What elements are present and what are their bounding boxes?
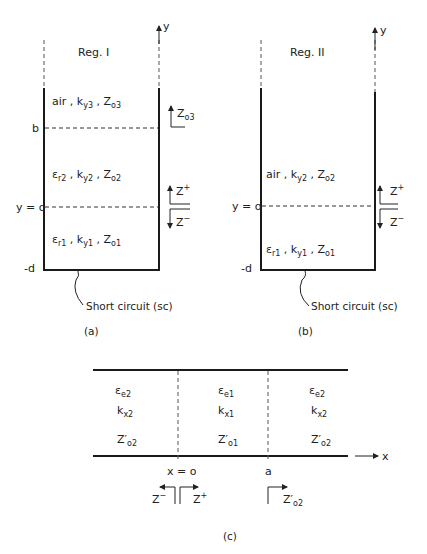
short-circuit-label: Short circuit (sc)	[311, 300, 398, 312]
short-circuit-label: Short circuit (sc)	[86, 300, 173, 312]
caption-c: (c)	[223, 530, 237, 542]
svg-text:Z′o1: Z′o1	[218, 433, 238, 448]
svg-text:kx2: kx2	[311, 404, 327, 419]
caption-b: (b)	[298, 325, 313, 337]
region-right: εe2 kx2 Z′o2	[309, 384, 331, 448]
mark-d: -d	[241, 262, 252, 275]
svg-text:Z′o2: Z′o2	[117, 433, 137, 448]
region-center: εe1 kx1 Z′o1	[218, 384, 238, 448]
layer2-params: εr2 , ky2 , Zo2	[52, 168, 121, 183]
short-circuit-leader	[75, 271, 83, 305]
y-axis-label: y	[163, 20, 170, 33]
x-axis-label: x	[382, 450, 389, 463]
waveguide-diagram: y Reg. I air , ky3 , Zo3 b Zo3 εr2 , ky2…	[0, 0, 427, 554]
figure-b: y Reg. II air , ky2 , Zo2 y = o Z+ Z− εr…	[232, 24, 404, 337]
mark-y0: y = o	[16, 201, 46, 214]
z-plus-label: Z+	[176, 183, 190, 198]
z-minus-label: Z−	[152, 491, 166, 506]
layer1-params: εr1 , ky1 , Zo1	[266, 243, 335, 258]
z-o3-label: Zo3	[177, 107, 195, 122]
svg-text:εe2: εe2	[309, 384, 325, 399]
svg-text:kx2: kx2	[117, 404, 133, 419]
mark-b: b	[32, 122, 39, 135]
z-plus-label: Z+	[193, 491, 207, 506]
z-minus-label: Z−	[176, 214, 190, 229]
mark-a: a	[265, 465, 272, 478]
region-label: Reg. II	[290, 46, 324, 59]
z-plus-label: Z+	[390, 183, 404, 198]
svg-text:εe1: εe1	[218, 384, 234, 399]
layer3-medium: air , ky3 , Zo3	[52, 95, 121, 110]
layer1-params: εr1 , ky1 , Zo1	[52, 233, 121, 248]
mark-x0: x = o	[167, 465, 197, 478]
figure-c: x εe2 kx2 Z′o2 εe1 kx1 Z′o1 εe2 kx2 Z′o2…	[93, 370, 389, 542]
svg-text:kx1: kx1	[218, 404, 234, 419]
layer2-params: air , ky2 , Zo2	[266, 168, 335, 183]
region-label: Reg. I	[78, 46, 109, 59]
caption-a: (a)	[84, 325, 99, 337]
mark-y0: y = o	[232, 200, 262, 213]
region-left: εe2 kx2 Z′o2	[115, 384, 137, 448]
y-axis-label: y	[380, 24, 387, 37]
svg-text:Z′o2: Z′o2	[311, 433, 331, 448]
z-o2-label: Z′o2	[283, 493, 303, 508]
svg-text:εe2: εe2	[115, 384, 131, 399]
figure-a: y Reg. I air , ky3 , Zo3 b Zo3 εr2 , ky2…	[16, 20, 195, 337]
mark-d: -d	[24, 262, 35, 275]
short-circuit-leader	[300, 271, 309, 306]
z-minus-label: Z−	[390, 214, 404, 229]
